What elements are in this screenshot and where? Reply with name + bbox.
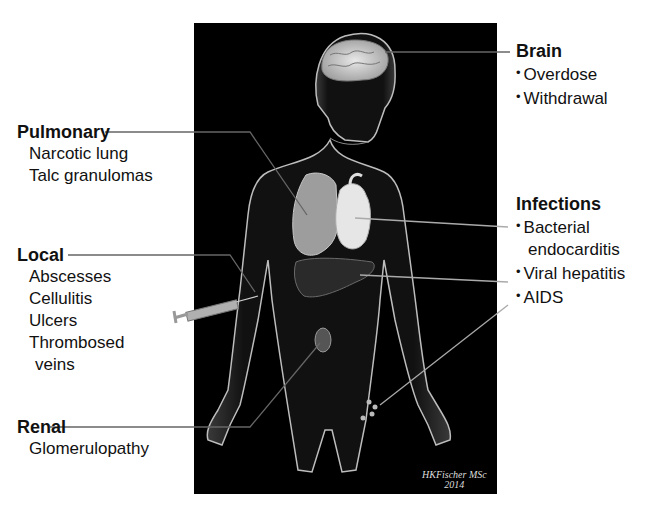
label-group-pulmonary: Pulmonary Narcotic lung Talc granulomas [17, 121, 153, 187]
item-narcotic-lung: Narcotic lung [17, 143, 153, 165]
item-ulcers: Ulcers [17, 310, 124, 332]
item-veins: veins [17, 354, 124, 376]
item-viral-hepatitis: Viral hepatitis [516, 261, 625, 285]
item-endocarditis: endocarditis [516, 239, 625, 261]
item-withdrawal: Withdrawal [516, 86, 608, 110]
brain-organ [322, 40, 388, 81]
heading-local: Local [17, 244, 124, 266]
label-group-renal: Renal Glomerulopathy [17, 416, 149, 460]
item-aids: AIDS [516, 285, 625, 309]
label-group-infections: Infections Bacterial endocarditis Viral … [516, 193, 625, 309]
artist-signature: HKFischer MSc 2014 [422, 470, 487, 490]
label-group-brain: Brain Overdose Withdrawal [516, 40, 608, 110]
signature-year: 2014 [422, 480, 487, 490]
heading-renal: Renal [17, 416, 149, 438]
item-bacterial: Bacterial [516, 215, 625, 239]
item-cellulitis: Cellulitis [17, 288, 124, 310]
body-silhouette [207, 34, 450, 472]
heading-brain: Brain [516, 40, 608, 62]
kidney-organ [315, 328, 331, 352]
heart-organ [336, 184, 371, 249]
item-overdose: Overdose [516, 62, 608, 86]
item-abscesses: Abscesses [17, 266, 124, 288]
label-group-local: Local Abscesses Cellulitis Ulcers Thromb… [17, 244, 124, 376]
item-glomerulopathy: Glomerulopathy [17, 438, 149, 460]
item-talc-granulomas: Talc granulomas [17, 165, 153, 187]
item-thrombosed: Thrombosed [17, 332, 124, 354]
heading-infections: Infections [516, 193, 625, 215]
heading-pulmonary: Pulmonary [17, 121, 153, 143]
